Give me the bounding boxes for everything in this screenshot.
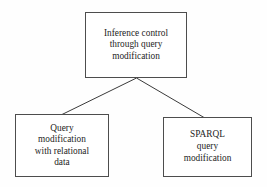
node-sparql-query-modification-label: SPARQL query modification: [181, 129, 235, 164]
node-sparql-query-modification[interactable]: SPARQL query modification: [163, 117, 252, 177]
node-query-modification-relational[interactable]: Query modification with relational data: [15, 114, 109, 177]
edge-root-to-sparql: [137, 78, 205, 118]
node-inference-control[interactable]: Inference control through query modifica…: [85, 12, 187, 78]
node-query-modification-relational-label: Query modification with relational data: [32, 123, 92, 169]
diagram-canvas: Inference control through query modifica…: [0, 0, 267, 187]
edge-root-to-relational: [62, 78, 137, 115]
node-inference-control-label: Inference control through query modifica…: [101, 28, 171, 62]
